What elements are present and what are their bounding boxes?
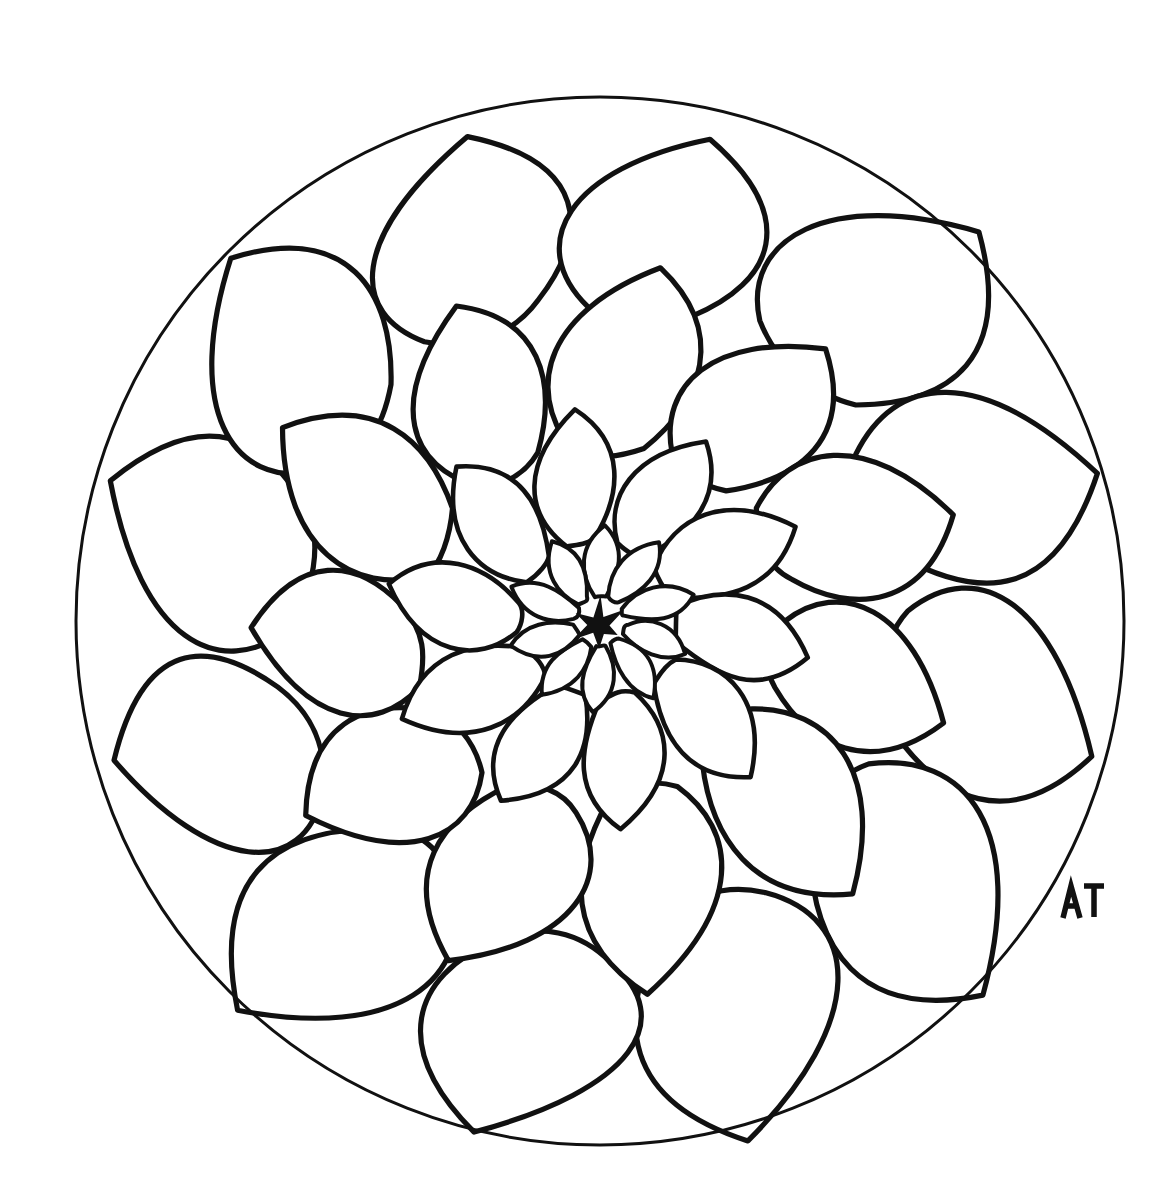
mandala-flower-artwork xyxy=(0,0,1171,1203)
coloring-page-canvas xyxy=(0,0,1171,1203)
